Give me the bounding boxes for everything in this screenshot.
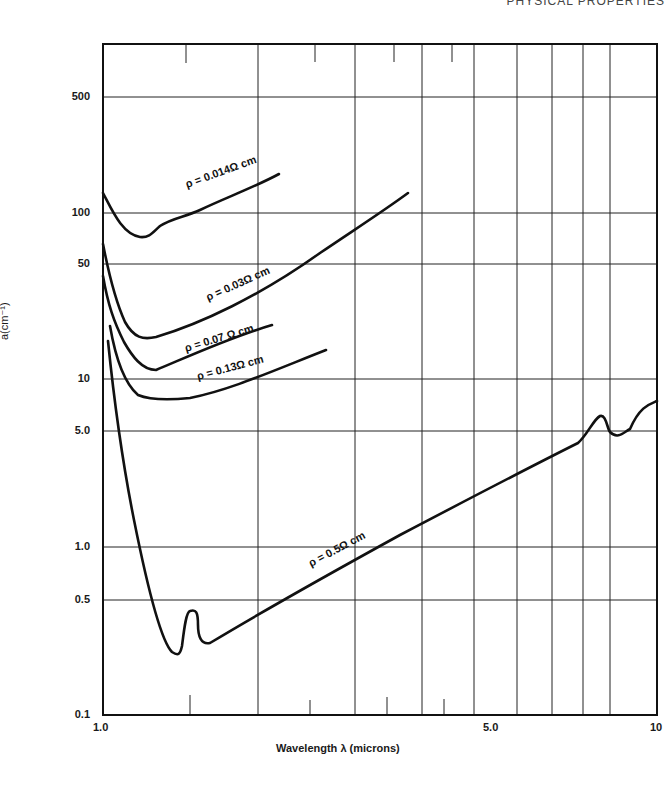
label-rho-0.014: ρ = 0.014Ω cm <box>184 153 258 190</box>
y-tick-500: 500 <box>50 90 90 102</box>
y-tick-100: 100 <box>50 206 90 218</box>
y-tick-10: 10 <box>50 372 90 384</box>
x-axis-label: Wavelength λ (microns) <box>276 742 400 754</box>
curve-rho-0.03 <box>103 193 408 338</box>
curve-rho-0.5 <box>108 341 657 654</box>
x-tick-1: 1.0 <box>93 721 108 733</box>
y-axis-label: a(cm⁻¹) <box>0 302 11 340</box>
y-tick-0.1: 0.1 <box>50 708 90 720</box>
y-tick-0.5: 0.5 <box>50 593 90 605</box>
label-rho-0.07: ρ = 0.07 Ω cm <box>183 321 255 353</box>
y-tick-50: 50 <box>50 257 90 269</box>
y-tick-1: 1.0 <box>50 540 90 552</box>
x-tick-10: 10 <box>650 721 662 733</box>
label-rho-0.5: ρ = 0.5Ω cm <box>306 529 367 569</box>
y-tick-5: 5.0 <box>50 424 90 436</box>
label-rho-0.03: ρ = 0.03Ω cm <box>204 264 272 303</box>
x-tick-5: 5.0 <box>483 721 498 733</box>
absorption-chart: ρ = 0.014Ω cm ρ = 0.03Ω cm ρ = 0.07 Ω cm… <box>0 0 665 796</box>
